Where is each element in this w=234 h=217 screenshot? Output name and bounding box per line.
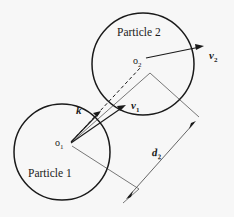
particle-1-circle (14, 104, 110, 200)
particle-1-center-label: o1 (55, 138, 64, 151)
vector-v1-subscript: 1 (136, 106, 140, 114)
vector-v2-arrow (146, 44, 204, 58)
vector-k-label: k (76, 105, 82, 116)
distance-d2-label: d2 (152, 147, 161, 161)
particle-2-center-label: o2 (133, 56, 142, 69)
extension-line-from-o1-lower (72, 146, 139, 189)
vector-v1-label: v1 (131, 100, 139, 114)
vector-v2-subscript: 2 (214, 56, 218, 64)
construction-lines-group (72, 73, 199, 203)
vector-v2-label: v2 (209, 50, 217, 64)
particle-2-center-subscript: 2 (138, 61, 142, 69)
particle-1-label: Particle 1 (28, 168, 72, 180)
collision-geometry-diagram: Particle 2 o2 Particle 1 o1 k v1 v2 d2 (0, 0, 234, 217)
particle-1-center-subscript: 1 (60, 143, 64, 151)
particle-2-label: Particle 2 (117, 27, 161, 39)
distance-d2-subscript: 2 (157, 153, 161, 161)
